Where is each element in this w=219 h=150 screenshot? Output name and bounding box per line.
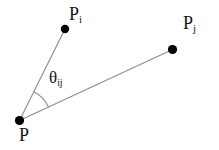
angle-label-theta-sub: ij: [57, 77, 62, 88]
point-label-pj: Pj: [183, 14, 196, 34]
angle-label-theta-ij: θij: [49, 69, 62, 88]
point-label-pj-base: P: [183, 13, 193, 33]
point-marker-p: [15, 116, 24, 125]
point-label-p: P: [19, 126, 29, 146]
point-label-p-base: P: [19, 125, 29, 145]
point-label-pi-sub: i: [79, 13, 82, 25]
point-label-pi: Pi: [69, 5, 82, 25]
point-label-pi-base: P: [69, 4, 79, 24]
angle-label-theta-base: θ: [49, 68, 57, 87]
point-marker-pi: [61, 25, 69, 33]
point-label-pj-sub: j: [193, 22, 196, 34]
geometry-diagram: P Pi Pj θij: [0, 0, 219, 150]
point-marker-pj: [168, 45, 177, 54]
